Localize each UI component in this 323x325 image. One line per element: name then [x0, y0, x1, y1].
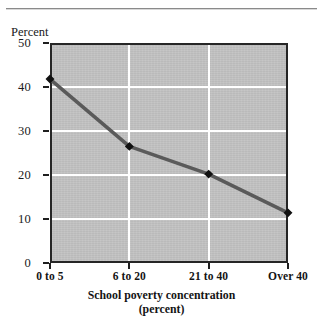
x-tick-mark — [208, 263, 210, 269]
x-tick-mark — [49, 263, 51, 269]
y-tick-mark — [43, 218, 49, 220]
y-tick-label: 10 — [0, 212, 31, 227]
series-line-path — [50, 79, 288, 213]
x-tick-mark — [287, 263, 289, 269]
data-series-line — [50, 43, 288, 263]
x-tick-label: 21 to 40 — [171, 270, 247, 282]
x-tick-label: Over 40 — [250, 270, 323, 282]
y-tick-label: 50 — [0, 36, 31, 51]
x-tick-mark — [128, 263, 130, 269]
x-axis-title-line2: (percent) — [0, 302, 323, 316]
y-tick-label: 30 — [0, 124, 31, 139]
figure-root: Percent 01020304050 0 to 56 to 2021 to 4… — [0, 0, 323, 325]
top-rule — [6, 8, 317, 9]
x-tick-label: 0 to 5 — [12, 270, 88, 282]
y-tick-label: 0 — [0, 256, 31, 271]
y-tick-mark — [43, 42, 49, 44]
plot-area — [50, 43, 288, 263]
x-tick-label: 6 to 20 — [91, 270, 167, 282]
x-axis-title: School poverty concentration (percent) — [0, 288, 323, 317]
x-axis-title-line1: School poverty concentration — [88, 288, 235, 302]
y-tick-mark — [43, 130, 49, 132]
y-tick-label: 40 — [0, 80, 31, 95]
y-tick-mark — [43, 86, 49, 88]
y-tick-label: 20 — [0, 168, 31, 183]
y-tick-mark — [43, 174, 49, 176]
